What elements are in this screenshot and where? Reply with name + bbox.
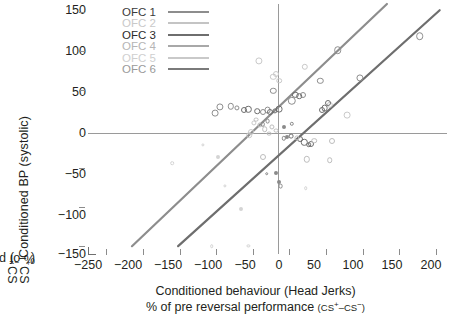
legend-item[interactable]: OFC 4 bbox=[122, 41, 209, 53]
regression-line bbox=[178, 10, 440, 246]
data-point bbox=[274, 128, 279, 133]
y-tick-150: 150 bbox=[42, 3, 86, 17]
y-tick-50: 50 bbox=[42, 85, 86, 99]
x-tick-neg200: −200 bbox=[114, 258, 142, 272]
y-tick-mark bbox=[79, 168, 85, 169]
y-tick-mark bbox=[79, 12, 85, 13]
x-axis-label-line2-paren: (CS+–CS−) bbox=[318, 302, 365, 313]
x-tick-neg150: −150 bbox=[154, 258, 182, 272]
x-axis-label: Conditioned behaviour (Head Jerks) % of … bbox=[60, 284, 451, 316]
x-axis-label-line2-prefix: % of pre reversal performance bbox=[146, 300, 318, 314]
data-point bbox=[274, 171, 278, 175]
y-tick-mark bbox=[79, 207, 85, 208]
data-point bbox=[289, 134, 294, 139]
y-tick-labels: 150 100 50 0 −50 −100 −150 bbox=[14, 0, 86, 272]
legend-item-label: OFC 6 bbox=[122, 63, 166, 75]
data-point bbox=[304, 187, 308, 191]
data-point bbox=[344, 112, 351, 119]
data-point bbox=[246, 132, 252, 138]
data-point bbox=[282, 125, 286, 129]
legend-item[interactable]: OFC 1 bbox=[122, 6, 209, 18]
data-point bbox=[239, 207, 243, 211]
data-point bbox=[285, 135, 289, 139]
legend-item-swatch bbox=[168, 11, 209, 13]
data-point bbox=[260, 154, 266, 160]
legend-item-swatch bbox=[168, 45, 209, 47]
y-tick-mark bbox=[79, 90, 85, 91]
x-tick-neg100: −100 bbox=[194, 258, 222, 272]
x-tick-200: 200 bbox=[421, 258, 442, 272]
data-point bbox=[276, 106, 283, 113]
data-point bbox=[211, 110, 218, 117]
y-tick-neg50: −50 bbox=[42, 167, 86, 181]
x-tick-50: 50 bbox=[307, 258, 321, 272]
axis-corner-horizontal bbox=[88, 254, 96, 255]
data-point bbox=[254, 108, 260, 114]
data-point bbox=[312, 138, 318, 144]
data-point bbox=[296, 93, 302, 99]
legend-item[interactable]: OFC 3 bbox=[122, 29, 209, 41]
legend: OFC 1OFC 2OFC 3OFC 4OFC 5OFC 6 bbox=[122, 6, 209, 75]
legend-item-label: OFC 5 bbox=[122, 52, 166, 64]
x-tick-100: 100 bbox=[343, 258, 364, 272]
data-point bbox=[265, 172, 269, 176]
legend-item-label: OFC 2 bbox=[122, 17, 166, 29]
data-point bbox=[416, 32, 424, 40]
legend-item-label: OFC 4 bbox=[122, 40, 166, 52]
data-point bbox=[267, 131, 272, 136]
y-tick-mark bbox=[79, 246, 85, 247]
data-point bbox=[170, 162, 174, 166]
x-axis-label-line1: Conditioned behaviour (Head Jerks) bbox=[60, 284, 451, 299]
data-point bbox=[334, 46, 342, 54]
y-tick-0: 0 bbox=[42, 126, 86, 140]
data-point bbox=[265, 119, 270, 124]
legend-item-swatch bbox=[168, 68, 209, 70]
legend-item[interactable]: OFC 6 bbox=[122, 64, 209, 76]
data-point bbox=[329, 138, 335, 144]
x-axis-label-line2: % of pre reversal performance (CS+–CS−) bbox=[60, 299, 451, 316]
y-tick-mark bbox=[79, 51, 85, 52]
legend-item-label: OFC 3 bbox=[122, 29, 166, 41]
legend-item[interactable]: OFC 2 bbox=[122, 18, 209, 30]
legend-item-swatch bbox=[168, 22, 209, 24]
data-point bbox=[216, 155, 220, 159]
y-tick-neg100: −100 bbox=[42, 208, 86, 222]
data-point bbox=[325, 100, 331, 106]
legend-item-label: OFC 1 bbox=[122, 6, 166, 18]
legend-item-swatch bbox=[168, 34, 209, 36]
data-point bbox=[210, 244, 214, 248]
data-point bbox=[273, 71, 279, 77]
data-point bbox=[253, 117, 258, 122]
x-tick-150: 150 bbox=[382, 258, 403, 272]
legend-item-swatch bbox=[168, 57, 209, 59]
legend-item[interactable]: OFC 5 bbox=[122, 52, 209, 64]
data-point bbox=[278, 184, 283, 189]
x-tick-0: 0 bbox=[276, 258, 283, 272]
scatter-plot-figure: Conditioned BP (systolic) % of pre rever… bbox=[0, 0, 451, 326]
data-point bbox=[327, 157, 333, 163]
data-point bbox=[276, 78, 282, 84]
x-tick-neg250: −250 bbox=[74, 258, 102, 272]
x-tick-neg50: −50 bbox=[234, 258, 255, 272]
